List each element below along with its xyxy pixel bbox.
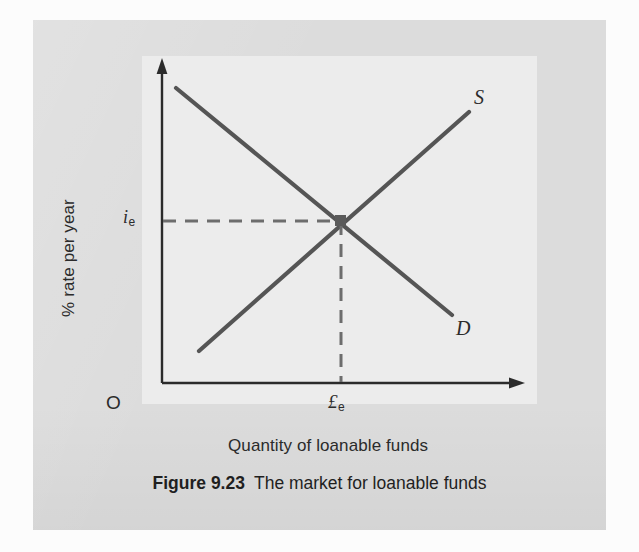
diagram-svg bbox=[0, 0, 639, 552]
origin-label: O bbox=[106, 393, 121, 412]
x-axis bbox=[162, 378, 525, 389]
y-axis-title-text: % rate per year bbox=[60, 158, 77, 358]
equilibrium-rate-subscript: e bbox=[129, 215, 136, 229]
equilibrium-rate-symbol: i bbox=[123, 207, 128, 227]
figure-container: % rate per year Quantity of loanable fun… bbox=[0, 0, 639, 552]
equilibrium-quantity-symbol: £ bbox=[328, 391, 338, 412]
demand-curve bbox=[176, 88, 452, 315]
y-axis-title: % rate per year bbox=[52, 0, 69, 158]
equilibrium-quantity-label: £e bbox=[328, 392, 345, 413]
equilibrium-point-marker bbox=[335, 215, 346, 226]
x-axis-title: Quantity of loanable funds bbox=[228, 437, 428, 454]
equilibrium-rate-label: ie bbox=[123, 208, 135, 228]
equilibrium-quantity-subscript: e bbox=[338, 400, 345, 414]
supply-curve-label: S bbox=[474, 87, 484, 107]
supply-curve bbox=[199, 112, 469, 351]
figure-caption-number: Figure 9.23 bbox=[153, 473, 245, 493]
figure-caption-title: The market for loanable funds bbox=[254, 473, 487, 493]
figure-caption: Figure 9.23The market for loanable funds bbox=[0, 473, 639, 494]
demand-curve-label: D bbox=[456, 318, 470, 338]
